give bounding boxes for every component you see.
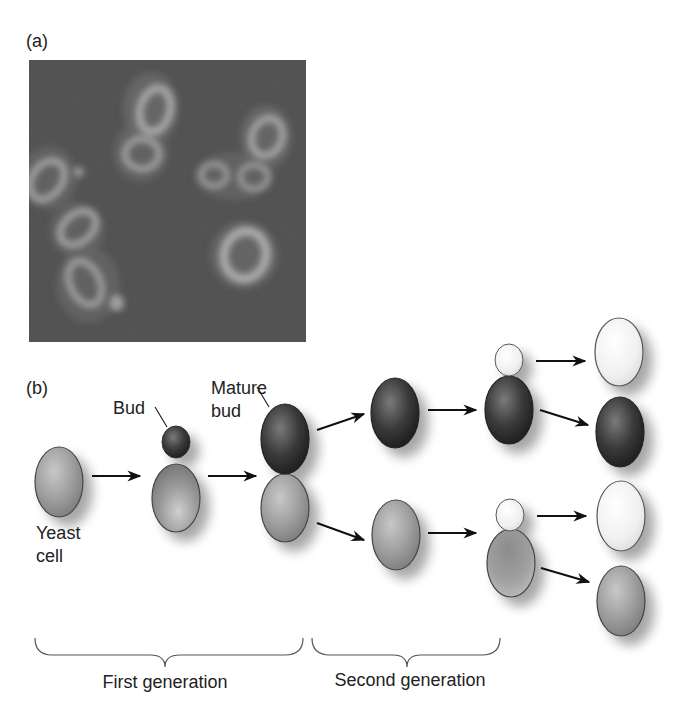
daughter-cell-dark [371,378,419,448]
arrow-icon [317,523,364,540]
arrow-icon [317,414,364,430]
mature-bud-label-line1: Mature [211,378,267,398]
budding-cell-dark [485,344,533,444]
yeast-cell-label-line1: Yeast [36,523,80,543]
result-cell-dark [596,397,644,467]
arrow-icon [540,410,588,425]
mother-cell-medium [372,500,420,570]
result-cell-light-2 [597,481,645,551]
arrow-icon [541,568,589,582]
yeast-cell-label-line2: cell [36,546,63,566]
first-generation-label: First generation [102,672,227,692]
second-generation-brace [312,638,500,667]
budding-cell-medium [487,499,535,597]
budding-cell [152,426,200,532]
result-cell-light-1 [595,318,643,386]
second-generation-label: Second generation [334,670,485,690]
yeast-budding-figure: (a) (b) [0,0,680,704]
result-cell-medium [597,566,645,636]
bud-label: Bud [113,398,145,418]
panel-a-label: (a) [26,31,48,51]
bud-leader-line [155,407,167,427]
mature-bud-label-line2: bud [211,401,241,421]
mature-bud-cell [261,404,309,542]
first-generation-brace [35,638,303,667]
micrograph-image [21,60,306,342]
panel-b-label: (b) [26,378,48,398]
yeast-cell [35,447,83,517]
